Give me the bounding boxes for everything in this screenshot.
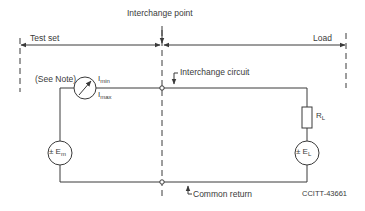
el-label: ± EL <box>296 148 311 157</box>
interchange-circuit-pointer <box>174 73 178 84</box>
circuit-diagram <box>0 0 365 211</box>
junction-top-icon <box>160 86 164 90</box>
em-sub: m <box>61 151 66 157</box>
figure-id-label: CCITT-43661 <box>302 190 347 198</box>
interchange-circuit-label: Interchange circuit <box>180 68 249 77</box>
em-label: ± Em <box>49 148 66 157</box>
resistor-icon <box>302 107 312 128</box>
rl-label: RL <box>316 112 325 121</box>
test-set-label: Test set <box>30 34 59 43</box>
load-label: Load <box>313 34 332 43</box>
i-max-label: Imax <box>98 91 112 100</box>
i-min-sub: min <box>100 78 110 84</box>
el-sub: L <box>308 151 311 157</box>
common-return-label: Common return <box>193 190 252 199</box>
ammeter-icon <box>74 77 96 99</box>
interchange-point-label: Interchange point <box>127 9 193 18</box>
i-min-label: Imin <box>98 75 110 84</box>
see-note-label: (See Note) <box>35 75 76 84</box>
em-prefix: ± E <box>49 147 61 156</box>
el-prefix: ± E <box>296 147 308 156</box>
common-return-pointer <box>188 186 192 194</box>
junction-bottom-icon <box>160 180 164 184</box>
rl-sub: L <box>322 115 325 121</box>
i-max-sub: max <box>100 94 111 100</box>
